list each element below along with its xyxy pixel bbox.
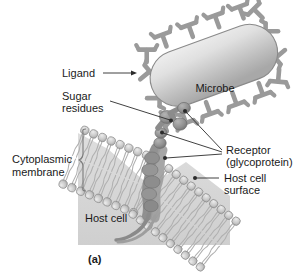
receptor-arrow-dot-lower bbox=[163, 156, 167, 160]
label-host-cell-surface-line1: Host cell bbox=[224, 172, 266, 184]
label-sugar-residues-line1: Sugar bbox=[62, 90, 92, 102]
diagram-canvas: Ligand Sugar residues Cytoplasmic membra… bbox=[0, 0, 305, 277]
label-receptor-line1: Receptor bbox=[226, 144, 271, 156]
label-sugar-residues-line2: residues bbox=[62, 102, 104, 114]
receptor-arrow-dot-upper bbox=[183, 109, 187, 113]
host-surface-arrow-dot bbox=[193, 176, 197, 180]
receptor-arrow-dot-mid bbox=[160, 131, 164, 135]
figure-caption: (a) bbox=[88, 253, 102, 265]
label-receptor-line2: (glycoprotein) bbox=[226, 156, 293, 168]
label-host-cell-surface-line2: surface bbox=[224, 184, 260, 196]
label-cytoplasmic-membrane-line2: membrane bbox=[12, 166, 65, 178]
figure-panel-a: Ligand Sugar residues Cytoplasmic membra… bbox=[0, 0, 305, 277]
label-cytoplasmic-membrane-line1: Cytoplasmic bbox=[12, 153, 72, 165]
label-host-cell: Host cell bbox=[85, 212, 127, 224]
label-ligand: Ligand bbox=[62, 67, 95, 79]
label-microbe: Microbe bbox=[195, 82, 234, 94]
sugar-arrow-dot bbox=[169, 119, 173, 123]
